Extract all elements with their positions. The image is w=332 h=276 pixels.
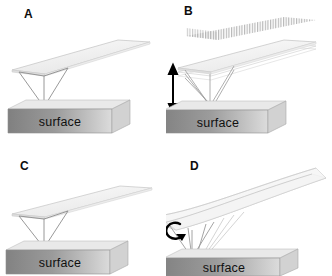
vibration-blur-b: [186, 17, 316, 40]
surface-label-b: surface: [197, 116, 239, 130]
panel-b-graphic: surface: [166, 0, 332, 138]
panel-d: D: [166, 138, 332, 276]
panel-a: A: [0, 0, 166, 138]
panel-d-graphic: surface: [166, 138, 332, 276]
surface-label-c: surface: [39, 256, 81, 270]
cantilever-beam-a: [12, 40, 150, 76]
surface-slab-b: surface: [166, 101, 286, 133]
surface-label-a: surface: [39, 115, 81, 129]
cantilever-beam-stack-b: [178, 40, 316, 80]
surface-slab-a: surface: [8, 100, 130, 133]
surface-slab-c: surface: [6, 241, 128, 274]
cantilever-beam-d-twisted: [166, 168, 326, 230]
panel-a-graphic: surface: [0, 0, 166, 138]
surface-slab-d: surface: [166, 249, 298, 276]
afm-cantilever-figure: A: [0, 0, 332, 276]
cantilever-beam-c: [12, 186, 152, 219]
panel-b: B: [166, 0, 332, 138]
panel-c: C: [0, 138, 166, 276]
surface-label-d: surface: [203, 261, 245, 275]
panel-c-graphic: surface: [0, 138, 166, 276]
